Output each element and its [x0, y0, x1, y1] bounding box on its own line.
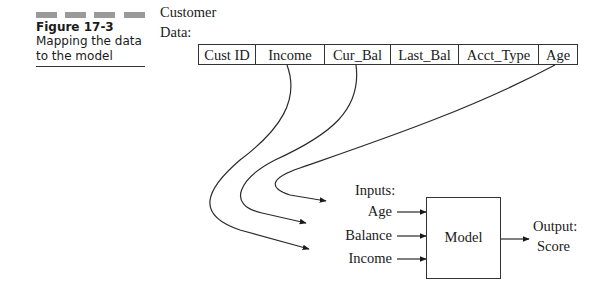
input-label-balance: Balance — [345, 227, 392, 244]
output-label: Output: — [533, 218, 577, 235]
model-box: Model — [426, 197, 501, 279]
mapping-connectors — [0, 0, 611, 296]
input-label-income: Income — [349, 250, 392, 267]
model-label: Model — [427, 229, 500, 246]
connector-age — [275, 65, 555, 201]
connector-income — [210, 65, 309, 249]
output-value: Score — [537, 238, 570, 255]
input-label-age: Age — [368, 203, 392, 220]
inputs-label: Inputs: — [355, 182, 395, 199]
connector-cur-bal — [241, 65, 357, 223]
